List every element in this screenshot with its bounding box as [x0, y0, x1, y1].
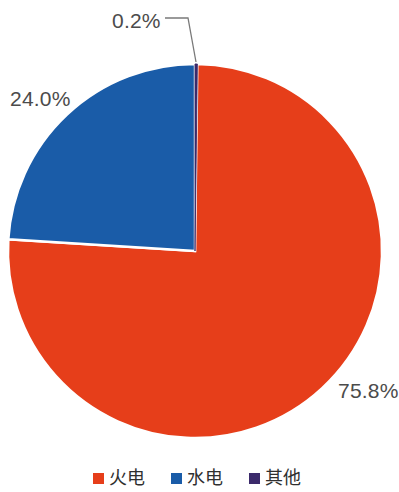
legend-swatch-icon-hydro [171, 473, 182, 484]
slice-label-thermal: 75.8% [338, 380, 399, 401]
legend-item-thermal[interactable]: 火电 [93, 469, 145, 487]
legend-label-thermal: 火电 [109, 469, 145, 487]
legend-swatch-icon-thermal [93, 473, 104, 484]
slice-label-other: 0.2% [112, 10, 161, 31]
leader-line-other [165, 18, 196, 62]
legend-label-hydro: 水电 [187, 469, 223, 487]
legend-swatch-icon-other [249, 473, 260, 484]
chart-legend: 火电 水电 其他 [0, 464, 394, 492]
pie-plot-area [0, 0, 394, 458]
legend-label-other: 其他 [265, 469, 301, 487]
pie-svg [0, 0, 394, 458]
legend-item-hydro[interactable]: 水电 [171, 469, 223, 487]
slice-label-hydro: 24.0% [10, 88, 71, 109]
legend-item-other[interactable]: 其他 [249, 469, 301, 487]
